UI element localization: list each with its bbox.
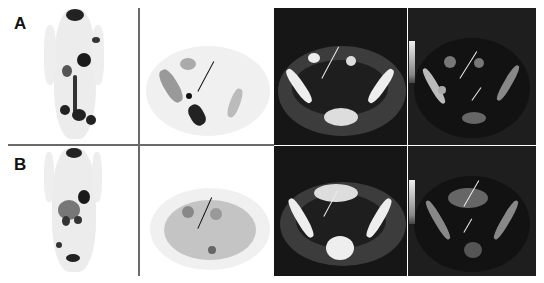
fused-axial-b <box>408 146 536 276</box>
pet-axial-b <box>142 148 272 276</box>
ct-axial-a <box>274 8 407 145</box>
row-label-a: A <box>14 14 26 34</box>
pet-mip-coronal-a <box>40 5 104 143</box>
intensity-scale-bar <box>409 41 415 83</box>
ct-axial-b <box>274 146 407 276</box>
fused-axial-a <box>408 8 536 145</box>
row-label-b: B <box>14 155 26 175</box>
pet-axial-a <box>142 8 272 142</box>
column-divider <box>138 8 140 276</box>
intensity-scale-bar <box>409 180 415 224</box>
pet-mip-coronal-b <box>40 146 104 276</box>
